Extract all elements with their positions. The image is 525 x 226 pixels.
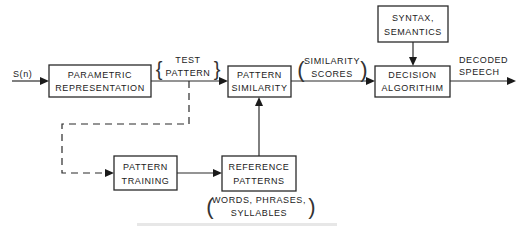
annotation-line-2: SCORES [311, 69, 353, 79]
right-paren: ) [360, 57, 367, 82]
block-label-line-2: TRAINING [122, 176, 170, 186]
block-label-line-2: SIMILARITY [231, 83, 287, 93]
annotation-decoded-speech: DECODED SPEECH [459, 55, 508, 77]
arrow-head [40, 77, 49, 85]
block-syntax-semantics: SYNTAX, SEMANTICS [378, 6, 448, 42]
annotation-line-1: WORDS, PHRASES, [212, 195, 306, 205]
annotation-line-1: DECODED [459, 55, 508, 65]
arrow-head [213, 169, 222, 177]
block-reference-patterns: REFERENCE PATTERNS [222, 156, 296, 191]
block-pattern-training: PATTERN TRAINING [114, 156, 177, 190]
block-label-line-1: PATTERN [123, 162, 168, 172]
arrow-head [409, 57, 417, 66]
annotation-test-pattern: { TEST PATTERN } [156, 55, 221, 80]
block-label-line-2: SEMANTICS [384, 27, 442, 37]
speech-recognition-block-diagram: S(n) PARAMETRIC REPRESENTATION { TEST PA… [0, 0, 525, 226]
block-label-line-1: DECISION [388, 70, 436, 80]
block-label-line-1: PARAMETRIC [68, 70, 132, 80]
caption-remnant [137, 223, 337, 226]
annotation-line-2: PATTERN [166, 68, 211, 78]
right-paren: ) [308, 194, 315, 219]
annotation-similarity-scores: ( SIMILARITY SCORES ) [297, 56, 367, 82]
annotation-line-1: TEST [175, 55, 200, 65]
block-label-line-2: PATTERNS [233, 176, 284, 186]
block-label-line-2: REPRESENTATION [55, 83, 145, 93]
arrow-head [255, 97, 263, 106]
arrow-head [219, 77, 228, 85]
arrow-head [105, 169, 114, 177]
annotation-line-2: SYLLABLES [231, 208, 287, 218]
left-brace: { [156, 58, 163, 80]
input-label: S(n) [13, 69, 32, 79]
block-label-line-1: REFERENCE [229, 162, 290, 172]
block-pattern-similarity: PATTERN SIMILARITY [228, 66, 291, 97]
annotation-reference-units: ( WORDS, PHRASES, SYLLABLES ) [206, 194, 315, 219]
block-decision-algorithm: DECISION ALGORITHIM [375, 66, 450, 97]
arrow-head [507, 77, 516, 85]
block-label-line-1: PATTERN [237, 70, 282, 80]
right-brace: } [214, 58, 221, 80]
block-label-line-1: SYNTAX, [392, 13, 434, 23]
block-label-line-2: ALGORITHIM [381, 83, 443, 93]
annotation-line-2: SPEECH [459, 67, 500, 77]
block-parametric-representation: PARAMETRIC REPRESENTATION [49, 65, 151, 97]
annotation-line-1: SIMILARITY [304, 56, 360, 66]
